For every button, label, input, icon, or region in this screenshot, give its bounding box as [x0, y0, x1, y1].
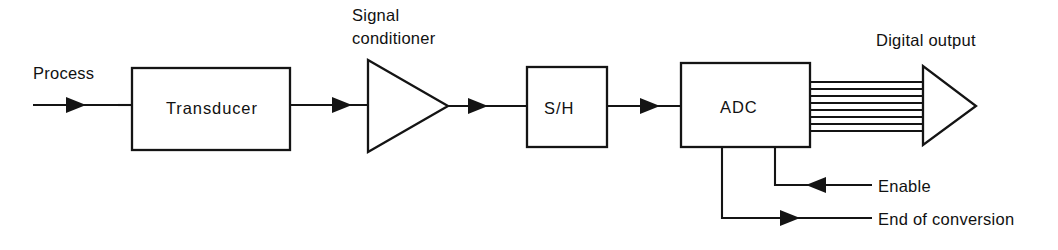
enable-label: Enable	[878, 177, 931, 195]
arrowhead-sc-sh	[468, 98, 488, 114]
digital-output-label: Digital output	[876, 31, 976, 49]
transducer-to-conditioner-wire	[290, 97, 368, 113]
signal-conditioner-block	[368, 60, 448, 152]
enable-arrowhead	[806, 177, 826, 193]
block-diagram: Process Transducer Signal conditioner S/…	[0, 0, 1058, 250]
process-input-arrowhead	[66, 97, 86, 113]
adc-label: ADC	[720, 98, 758, 116]
signal-conditioner-label-line2: conditioner	[352, 29, 436, 47]
signal-conditioner-label-line1: Signal	[352, 6, 399, 24]
sh-to-adc-wire	[607, 98, 681, 114]
signal-conditioner-triangle	[368, 60, 448, 152]
digital-output-bus	[810, 82, 925, 131]
transducer-label: Transducer	[166, 99, 258, 117]
sample-hold-label: S/H	[544, 99, 574, 117]
diagram-canvas: Process Transducer Signal conditioner S/…	[0, 0, 1058, 250]
end-of-conversion-signal	[722, 147, 872, 226]
process-input-label: Process	[33, 64, 94, 82]
process-input-signal	[33, 97, 132, 113]
end-of-conversion-arrowhead	[780, 210, 800, 226]
arrowhead-td-sc	[332, 97, 352, 113]
digital-output-triangle	[923, 66, 976, 145]
conditioner-to-sh-wire	[447, 98, 527, 114]
end-of-conversion-label: End of conversion	[878, 210, 1014, 228]
arrowhead-sh-adc	[640, 98, 660, 114]
enable-signal	[775, 147, 872, 193]
end-of-conversion-wire	[722, 147, 872, 218]
digital-output-block	[923, 66, 976, 145]
